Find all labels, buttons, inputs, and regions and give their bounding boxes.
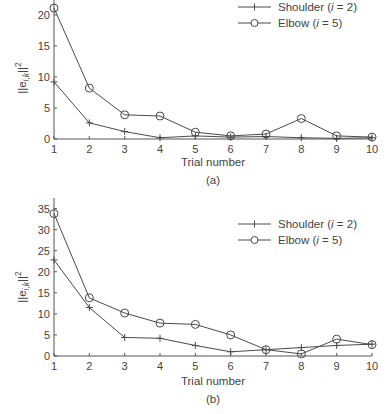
y-axis-title: ||ei,k||2 [13, 62, 31, 94]
y-tick-label: 30 [38, 224, 50, 236]
y-tick-label: 5 [44, 329, 50, 341]
legend-label: Elbow (i = 5) [278, 17, 342, 29]
legend-circle-icon [251, 237, 258, 244]
y-tick-label: 20 [38, 9, 50, 21]
x-tick-label: 3 [122, 360, 128, 372]
y-tick-label: 10 [38, 71, 50, 83]
series-shoulder [51, 78, 376, 141]
y-tick-label: 35 [38, 203, 50, 215]
figure: 0510152012345678910Trial number(a)||ei,k… [0, 0, 389, 414]
x-tick-label: 7 [263, 143, 269, 155]
y-tick-label: 5 [44, 102, 50, 114]
legend-label: Shoulder (i = 2) [278, 1, 357, 13]
legend-circle-icon [251, 20, 258, 27]
y-axis-title: ||ei,k||2 [13, 271, 31, 303]
y-tick-label: 0 [44, 133, 50, 145]
x-axis-title: Trial number [181, 156, 245, 168]
x-axis-title: Trial number [181, 375, 245, 387]
legend: Shoulder (i = 2)Elbow (i = 5) [238, 1, 357, 29]
x-tick-label: 4 [157, 360, 163, 372]
series-elbow [50, 210, 376, 358]
y-tick-label: 0 [44, 350, 50, 362]
x-tick-label: 2 [86, 360, 92, 372]
panel-caption: (a) [206, 174, 220, 186]
x-tick-label: 8 [298, 143, 304, 155]
y-tick-label: 25 [38, 245, 50, 257]
x-tick-label: 2 [86, 143, 92, 155]
x-tick-label: 1 [51, 143, 57, 155]
y-tick-label: 20 [38, 266, 50, 278]
x-tick-label: 5 [192, 360, 198, 372]
x-tick-label: 9 [334, 360, 340, 372]
x-tick-label: 7 [263, 360, 269, 372]
panel-caption: (b) [206, 393, 220, 405]
x-tick-label: 5 [192, 143, 198, 155]
x-tick-label: 4 [157, 143, 163, 155]
y-tick-label: 10 [38, 308, 50, 320]
x-tick-label: 9 [334, 143, 340, 155]
panel-a: 0510152012345678910Trial number(a)||ei,k… [13, 0, 378, 186]
x-tick-label: 10 [366, 143, 378, 155]
legend-label: Elbow (i = 5) [278, 234, 342, 246]
y-tick-label: 15 [38, 40, 50, 52]
x-tick-label: 8 [298, 360, 304, 372]
legend: Shoulder (i = 2)Elbow (i = 5) [238, 218, 357, 246]
x-tick-label: 3 [122, 143, 128, 155]
panel-b: 0510152025303512345678910Trial number(b)… [13, 198, 378, 405]
x-tick-label: 10 [366, 360, 378, 372]
x-tick-label: 6 [228, 143, 234, 155]
x-tick-label: 6 [228, 360, 234, 372]
y-tick-label: 15 [38, 287, 50, 299]
legend-label: Shoulder (i = 2) [278, 218, 357, 230]
x-tick-label: 1 [51, 360, 57, 372]
series-shoulder [51, 256, 376, 355]
